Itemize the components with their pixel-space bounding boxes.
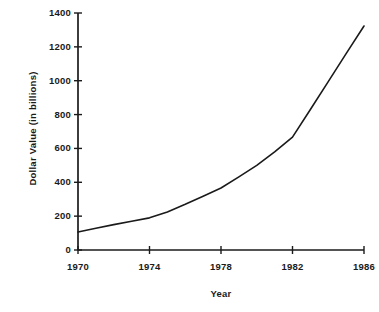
data-series-line xyxy=(78,26,364,232)
y-tick-label: 1400 xyxy=(29,7,71,18)
x-tick-label: 1986 xyxy=(341,261,379,272)
y-tick-label: 200 xyxy=(29,210,71,221)
y-tick-label: 0 xyxy=(29,244,71,255)
x-tick-label: 1974 xyxy=(127,261,173,272)
x-tick-label: 1982 xyxy=(270,261,316,272)
y-axis-title: Dollar Value (in billions) xyxy=(27,34,38,224)
y-tick-label: 800 xyxy=(29,109,71,120)
y-tick-label: 1200 xyxy=(29,41,71,52)
y-tick-label: 1000 xyxy=(29,75,71,86)
x-tick-label: 1978 xyxy=(198,261,244,272)
y-tick-label: 400 xyxy=(29,176,71,187)
x-axis-title: Year xyxy=(78,288,364,299)
line-chart-figure: Dollar Value (in billions) Year 02004006… xyxy=(0,0,379,312)
y-tick-label: 600 xyxy=(29,142,71,153)
x-tick-label: 1970 xyxy=(55,261,101,272)
